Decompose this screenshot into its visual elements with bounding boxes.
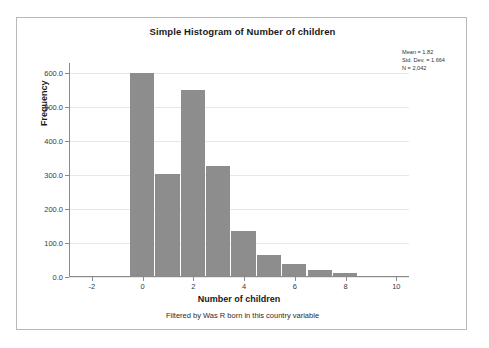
gridline — [69, 209, 409, 210]
y-axis-tick-label: 300.0 — [44, 171, 63, 180]
plot-area: 0.0100.0200.0300.0400.0500.0600.0 -20246… — [69, 63, 409, 277]
histogram-bar — [181, 90, 205, 276]
x-axis-tick — [92, 277, 93, 281]
x-axis-tick — [193, 277, 194, 281]
gridline — [69, 141, 409, 142]
x-axis-title: Number of children — [69, 294, 409, 304]
gridline — [69, 175, 409, 176]
histogram-bar — [155, 174, 179, 276]
y-axis-tick — [65, 175, 69, 176]
x-axis-tick-label: 4 — [242, 282, 246, 291]
x-axis-tick — [295, 277, 296, 281]
x-axis-tick — [396, 277, 397, 281]
chart-footnote: Filtered by Was R born in this country v… — [17, 311, 468, 320]
gridline — [69, 107, 409, 108]
y-axis-tick — [65, 141, 69, 142]
y-axis-tick-label: 0.0 — [53, 273, 63, 282]
x-axis-tick — [143, 277, 144, 281]
y-axis-line — [69, 63, 70, 277]
chart-frame: Simple Histogram of Number of children M… — [16, 17, 467, 330]
histogram-bar — [282, 264, 306, 276]
x-axis-tick — [244, 277, 245, 281]
y-axis-tick-label: 100.0 — [44, 239, 63, 248]
y-axis-tick — [65, 277, 69, 278]
x-axis-tick-label: 2 — [191, 282, 195, 291]
y-axis-tick-label: 200.0 — [44, 205, 63, 214]
histogram-bar — [231, 231, 255, 276]
y-axis-tick-label: 600.0 — [44, 69, 63, 78]
histogram-bar — [130, 73, 154, 276]
chart-title: Simple Histogram of Number of children — [17, 26, 468, 37]
x-axis-tick-label: 10 — [392, 282, 400, 291]
gridline — [69, 73, 409, 74]
x-axis-tick — [346, 277, 347, 281]
gridline — [69, 277, 409, 278]
x-axis-tick-label: 6 — [293, 282, 297, 291]
stat-mean: Mean = 1.82 — [402, 48, 445, 56]
x-axis-tick-label: 0 — [140, 282, 144, 291]
histogram-bar — [257, 255, 281, 276]
histogram-bar — [206, 166, 230, 276]
y-axis-tick — [65, 243, 69, 244]
y-axis-tick — [65, 209, 69, 210]
x-axis-line — [69, 276, 409, 277]
y-axis-tick — [65, 73, 69, 74]
y-axis-tick — [65, 107, 69, 108]
x-axis-tick-label: 8 — [343, 282, 347, 291]
x-axis-tick-label: -2 — [88, 282, 95, 291]
y-axis-tick-label: 400.0 — [44, 137, 63, 146]
y-axis-tick-label: 500.0 — [44, 103, 63, 112]
